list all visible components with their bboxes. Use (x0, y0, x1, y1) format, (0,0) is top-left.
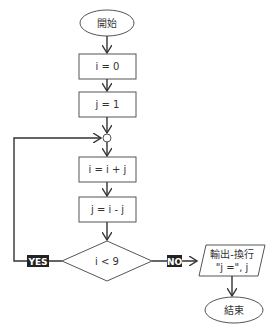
init-j-label: j = 1 (95, 99, 120, 110)
io-output: 輸出-換行 "j =", j (199, 245, 265, 276)
update-j-label: j = i - j (90, 204, 124, 215)
output-line2: "j =", j (216, 262, 249, 273)
condition-label: i < 9 (95, 256, 119, 267)
yes-label: YES (27, 255, 49, 267)
init-i-label: i = 0 (96, 61, 120, 72)
output-line1: 輸出-換行 (210, 248, 254, 260)
flowchart: 開始 i = 0 j = 1 i = i + j j = i - j i < 9… (0, 0, 280, 333)
process-init-j: j = 1 (79, 92, 136, 117)
junction-node (103, 134, 111, 142)
svg-text:YES: YES (27, 257, 47, 267)
process-init-i: i = 0 (79, 54, 136, 79)
process-update-j: j = i - j (79, 197, 136, 222)
update-i-label: i = i + j (89, 164, 127, 175)
start-node: 開始 (80, 10, 134, 36)
decision-condition: i < 9 (62, 241, 152, 281)
start-label: 開始 (97, 17, 117, 29)
no-label: NO (167, 255, 183, 267)
svg-text:NO: NO (167, 257, 183, 267)
end-node: 結束 (205, 297, 263, 323)
process-update-i: i = i + j (79, 157, 136, 182)
end-label: 結束 (224, 304, 244, 316)
